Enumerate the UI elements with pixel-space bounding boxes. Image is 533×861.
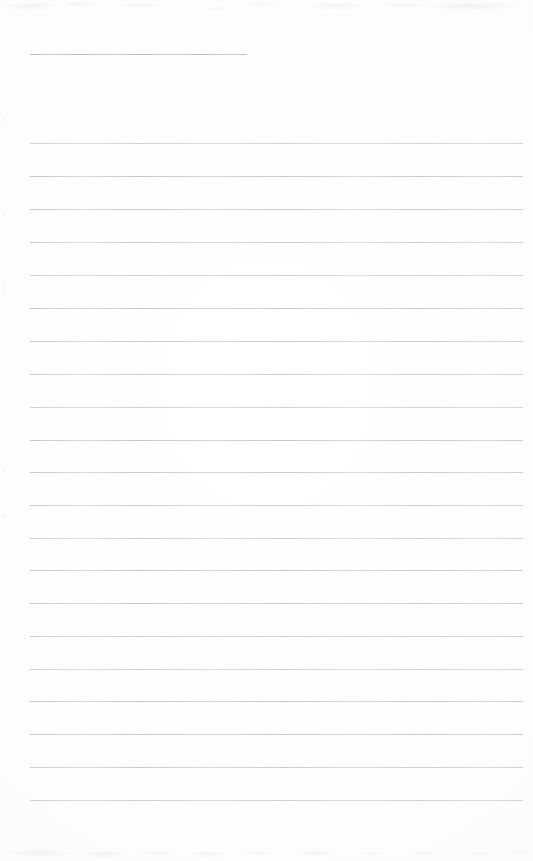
scanned-page bbox=[0, 0, 533, 861]
paper-background bbox=[0, 0, 533, 861]
